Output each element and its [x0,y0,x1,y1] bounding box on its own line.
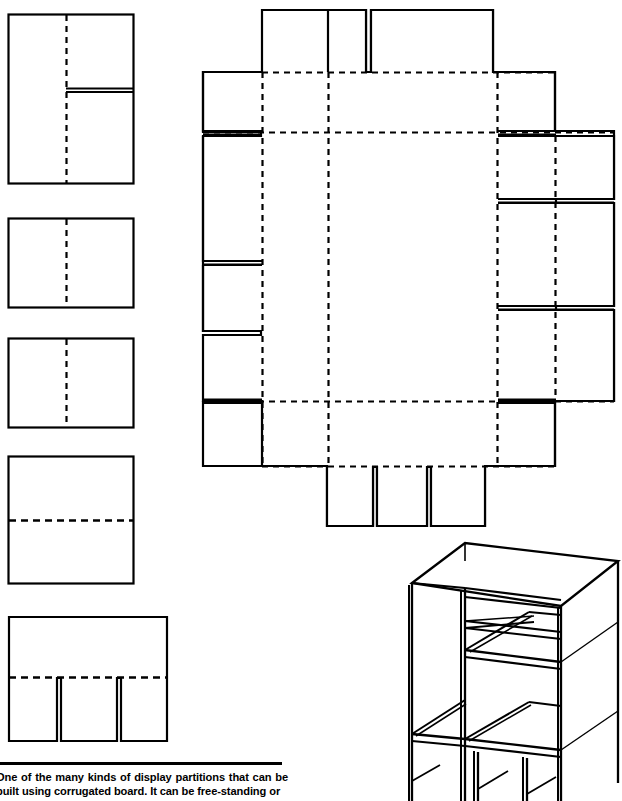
blank-5-partition-panel-three-tab [9,617,167,741]
blank-2-partition-panel-plain-a [9,219,134,308]
blank-1-partition-panel-slotted-upper [9,15,134,184]
figure-caption: One of the many kinds of display partiti… [0,762,300,798]
page-root: One of the many kinds of display partiti… [0,0,622,801]
assembled-display-partition-isometric [409,543,618,801]
blank-3-partition-panel-plain-b [9,339,134,428]
technical-figure [0,0,622,801]
main-die-cut-blank [203,10,614,526]
blank-4-partition-panel-horizontal-fold [9,457,134,584]
shelf-upper-recede [465,612,529,650]
shelf-left-recede [412,700,465,734]
shelf-upper-front [465,650,561,662]
caption-text: One of the many kinds of display partiti… [0,770,288,798]
caption-rule [0,762,282,765]
shelf-middle-recede [465,702,529,739]
cabinet-top-face [412,543,618,606]
shelf-left-front [412,734,465,739]
